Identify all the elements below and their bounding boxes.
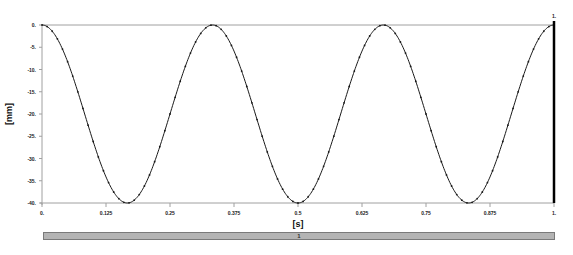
- x-tick-label: 0.375: [228, 210, 241, 216]
- x-tick-label: 0.25: [165, 210, 175, 216]
- time-cursor-label: 1.: [552, 13, 557, 19]
- displacement-chart: 0.-5.-10.-15.-20.-25.-30.-35.-40.0.0.125…: [0, 0, 573, 230]
- y-tick-label: -25.: [27, 133, 36, 139]
- y-tick-label: -5.: [30, 44, 36, 50]
- y-axis-title: [mm]: [4, 103, 14, 125]
- x-tick-label: 0.625: [356, 210, 369, 216]
- data-markers: [41, 24, 555, 204]
- timeline-scrubber-bar[interactable]: 1: [43, 232, 555, 240]
- x-axis-title: [s]: [293, 219, 304, 229]
- x-tick-label: 0.125: [100, 210, 113, 216]
- x-tick-label: 0.75: [421, 210, 431, 216]
- x-tick-label: 1.: [552, 210, 557, 216]
- x-tick-label: 0.: [40, 210, 45, 216]
- y-tick-label: -20.: [27, 111, 36, 117]
- timeline-step-label: 1: [44, 232, 554, 240]
- y-tick-label: -40.: [27, 200, 36, 206]
- y-tick-label: -10.: [27, 67, 36, 73]
- chart-ticks: 0.-5.-10.-15.-20.-25.-30.-35.-40.0.0.125…: [27, 22, 556, 216]
- x-tick-label: 0.5: [295, 210, 302, 216]
- chart-axes: [40, 25, 554, 205]
- y-tick-label: -15.: [27, 89, 36, 95]
- data-curve: [42, 25, 554, 203]
- y-tick-label: -35.: [27, 178, 36, 184]
- x-tick-label: 0.875: [484, 210, 497, 216]
- y-tick-label: 0.: [32, 22, 37, 28]
- y-tick-label: -30.: [27, 156, 36, 162]
